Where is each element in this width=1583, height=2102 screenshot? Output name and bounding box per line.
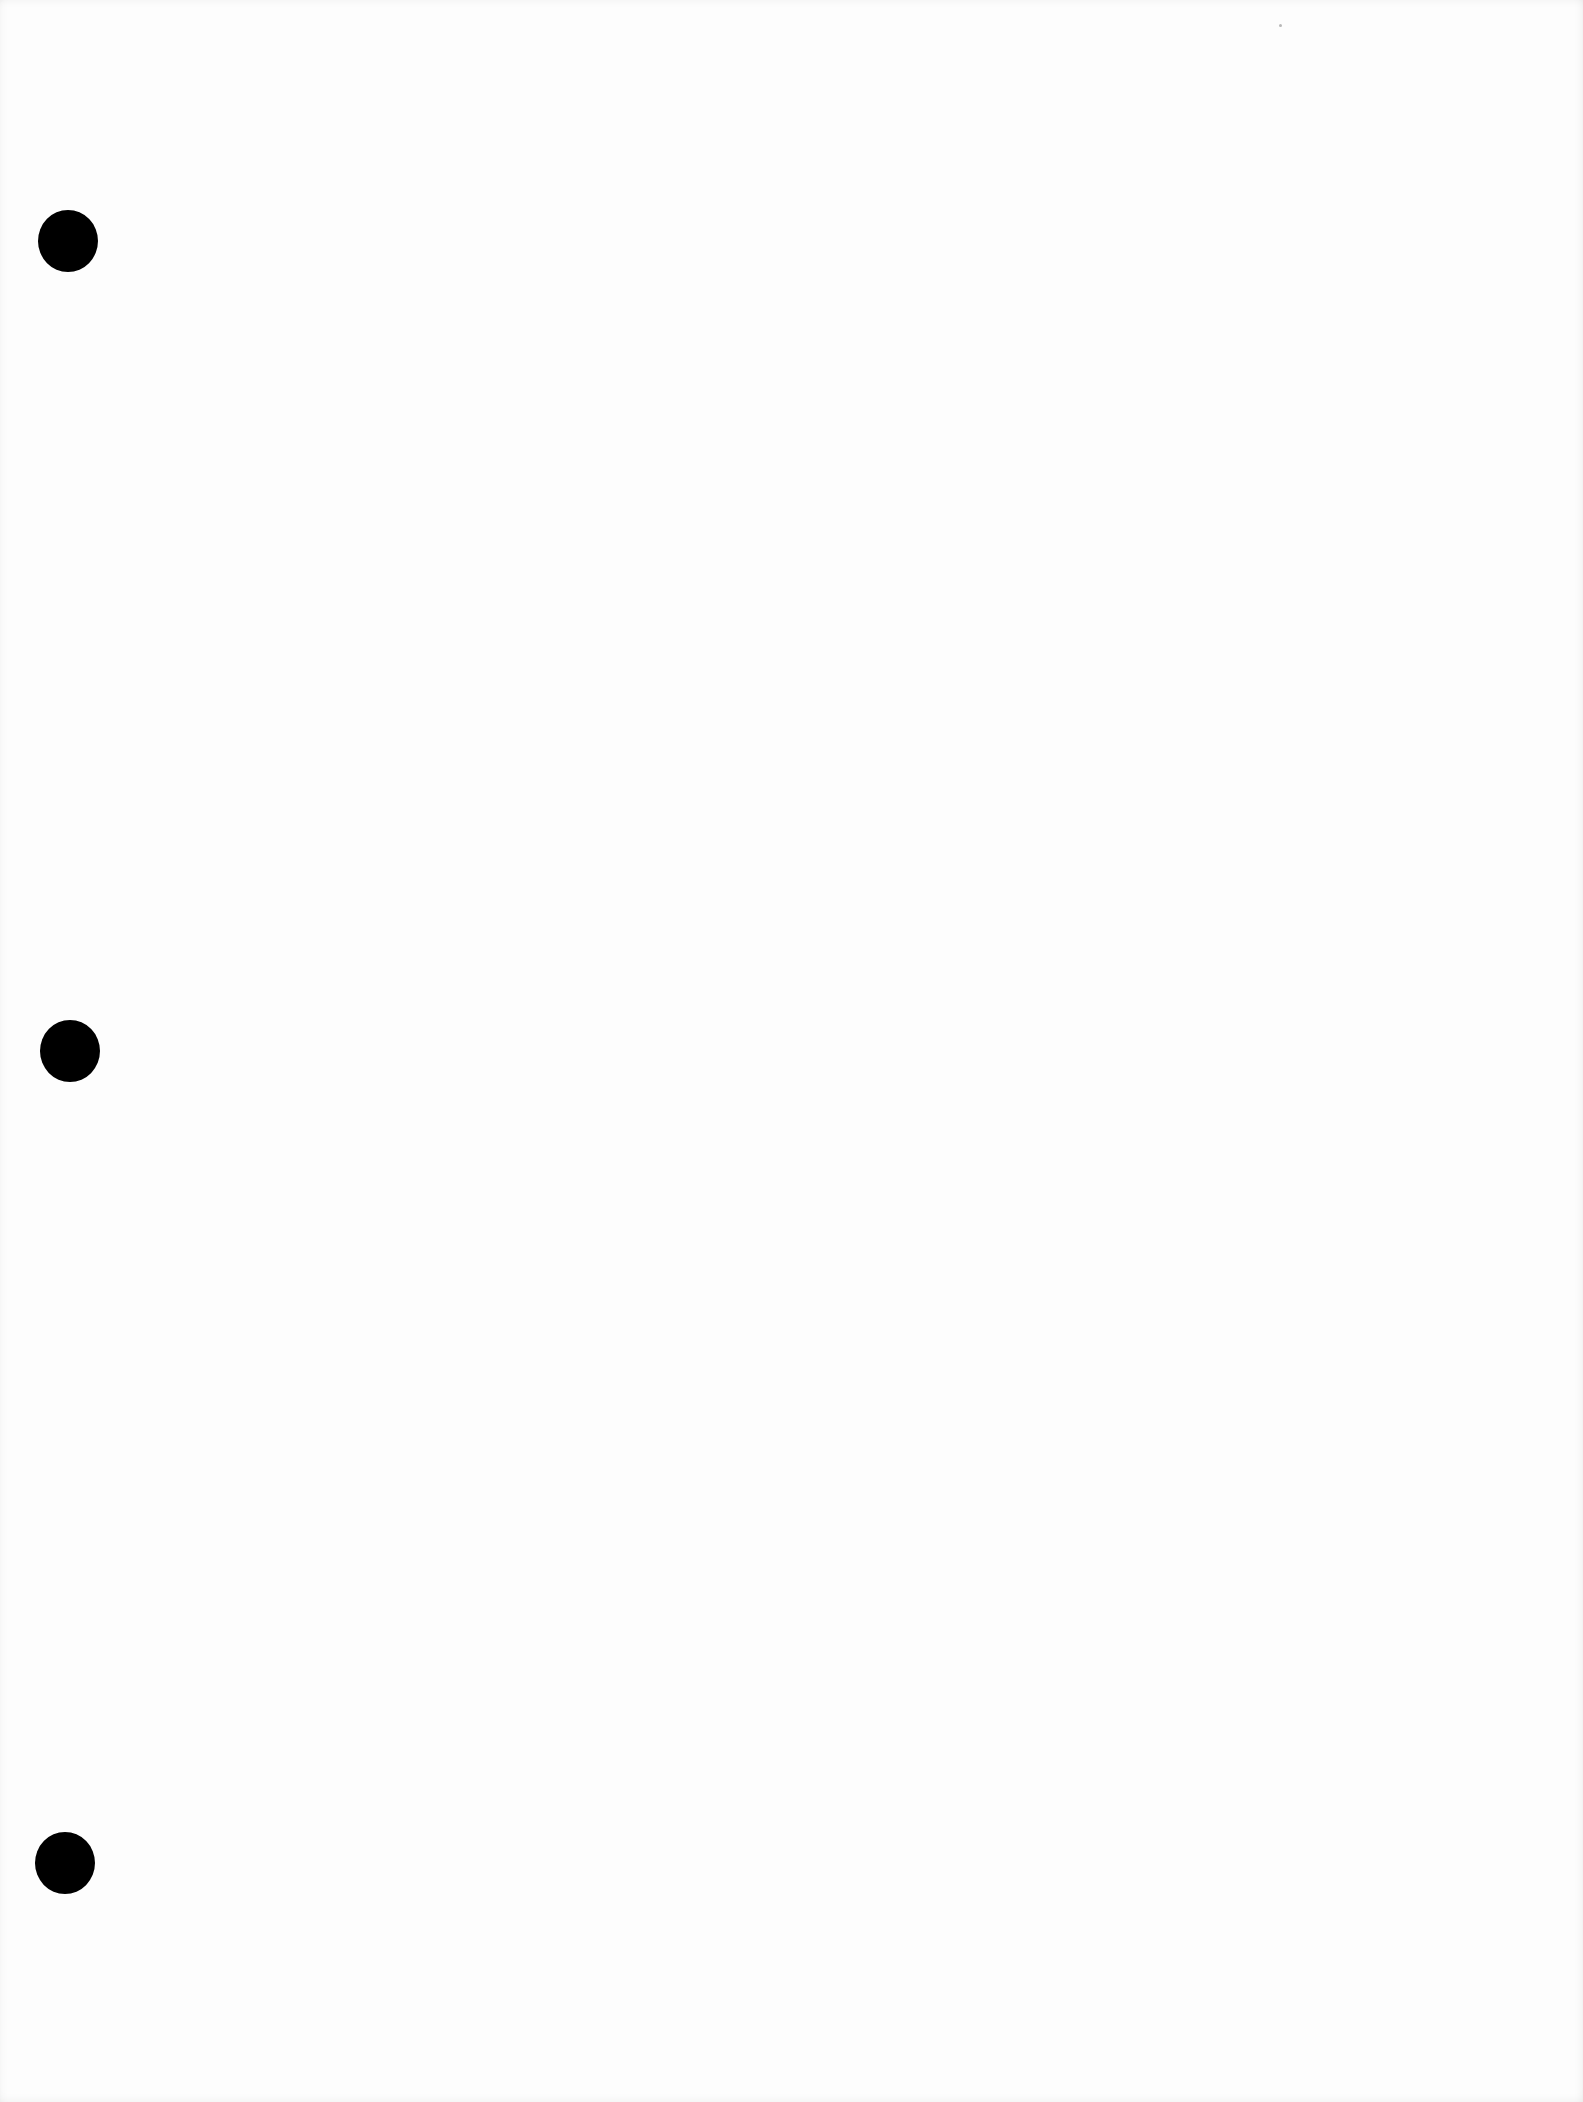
punch-hole-middle (40, 1020, 100, 1082)
scan-speck (1279, 24, 1282, 27)
punch-hole-bottom (35, 1832, 95, 1894)
punch-hole-top (38, 210, 98, 272)
scanned-page (0, 0, 1583, 2102)
